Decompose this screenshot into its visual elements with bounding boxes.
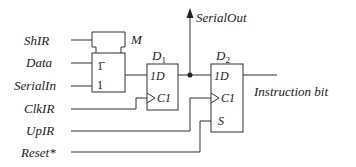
d2-d-pin: 1D: [214, 69, 229, 83]
input-label-reset: Reset*: [20, 145, 56, 160]
input-label-shir: ShIR: [24, 33, 49, 48]
wire-upir: [71, 98, 211, 131]
input-label-clkir: ClkIR: [24, 101, 54, 116]
mux-input1-label: 1: [97, 78, 103, 92]
d2-clock-triangle-icon: [211, 93, 219, 103]
d1-clock-triangle-icon: [147, 93, 155, 103]
flipflop-d1: D1 1D C1: [147, 48, 178, 110]
d2-name: D2: [215, 48, 230, 65]
d1-d-pin: 1D: [150, 69, 165, 83]
d2-set-pin: S: [218, 114, 224, 128]
d1-clk-pin: C1: [157, 91, 171, 105]
mux-input0-label: 1̄: [97, 59, 105, 73]
wire-clkir: [71, 98, 147, 109]
input-label-upir: UpIR: [26, 123, 54, 138]
input-label-data: Data: [25, 55, 53, 70]
d1-name: D1: [151, 48, 166, 65]
input-label-serialin: SerialIn: [14, 78, 56, 93]
output-label-serialout: SerialOut: [196, 10, 247, 25]
arrow-up-icon: [187, 8, 194, 18]
d2-clk-pin: C1: [221, 91, 235, 105]
mux-control-block: M: [92, 32, 143, 53]
mux-control-label: M: [130, 32, 143, 47]
output-label-instruction: Instruction bit: [253, 84, 328, 99]
multiplexer: 1̄ 1: [92, 53, 125, 92]
circuit-diagram: ShIR Data SerialIn ClkIR UpIR Reset* M 1…: [0, 0, 356, 167]
flipflop-d2: D2 1D C1 S: [211, 48, 243, 132]
